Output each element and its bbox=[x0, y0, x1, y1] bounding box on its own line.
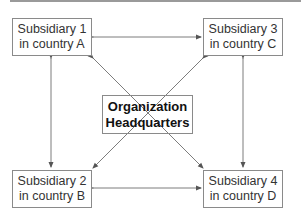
node-subsidiary-1: Subsidiary 1 in country A bbox=[12, 18, 92, 56]
node-label-line2: in country B bbox=[19, 189, 85, 204]
node-label-line1: Subsidiary 4 bbox=[209, 174, 278, 189]
node-label-line2: in country C bbox=[210, 37, 277, 52]
node-label-line2: Headquarters bbox=[106, 115, 190, 131]
node-subsidiary-2: Subsidiary 2 in country B bbox=[12, 170, 92, 208]
node-subsidiary-4: Subsidiary 4 in country D bbox=[203, 170, 283, 208]
node-headquarters: Organization Headquarters bbox=[102, 95, 193, 134]
node-label-line2: in country D bbox=[210, 189, 277, 204]
node-label-line2: in country A bbox=[19, 37, 84, 52]
node-label-line1: Subsidiary 2 bbox=[18, 174, 87, 189]
node-label-line1: Organization bbox=[108, 99, 187, 115]
node-label-line1: Subsidiary 1 bbox=[18, 22, 87, 37]
node-label-line1: Subsidiary 3 bbox=[209, 22, 278, 37]
node-subsidiary-3: Subsidiary 3 in country C bbox=[203, 18, 283, 56]
